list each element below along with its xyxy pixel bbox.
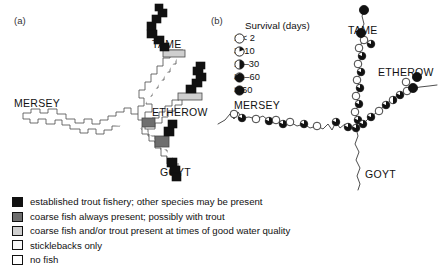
legend-label: no fish — [30, 255, 58, 265]
panel-a-map — [0, 0, 218, 190]
site-marker — [367, 113, 375, 121]
site-marker — [353, 76, 361, 84]
legend-swatch-light-gray — [12, 226, 23, 236]
site-marker — [357, 68, 365, 76]
panel-a-label-goyt: GOYT — [160, 166, 191, 178]
panel-b-label-tame: TAME — [348, 24, 378, 36]
legend-row: coarse fish and/or trout present at time… — [12, 224, 432, 238]
site-markers-mersey — [230, 110, 360, 132]
site-marker — [382, 101, 390, 109]
legend-swatch-near-white — [12, 240, 23, 250]
site-marker — [408, 83, 417, 92]
site-marker — [230, 110, 238, 118]
figure-root: (a) — [0, 0, 438, 274]
site-markers-etherow — [359, 72, 421, 127]
site-marker — [238, 114, 246, 122]
panel-a-label-tame: TAME — [152, 38, 182, 50]
panel-b-label-goyt: GOYT — [365, 168, 396, 180]
site-marker — [265, 117, 273, 125]
site-marker — [358, 52, 366, 60]
site-marker — [355, 100, 363, 108]
site-marker — [356, 84, 364, 92]
site-marker — [396, 91, 404, 99]
site-marker — [332, 118, 340, 126]
site-marker — [351, 108, 359, 116]
site-marker — [313, 122, 321, 130]
panel-b-map — [208, 0, 438, 190]
site-marker — [375, 107, 383, 115]
reach-confluence-darkgray — [142, 118, 155, 127]
panel-b: (b) Survival (days) 1 < 2 3–10 11–30 — [208, 0, 438, 190]
reach-etherow-lightgray — [178, 93, 202, 100]
legend-label: coarse fish and/or trout present at time… — [30, 226, 290, 236]
legend-row: coarse fish always present; possibly wit… — [12, 209, 432, 223]
site-marker — [300, 120, 308, 128]
site-marker — [354, 60, 362, 68]
panel-b-label-mersey: MERSEY — [234, 99, 280, 111]
site-marker — [402, 78, 410, 86]
legend-label: sticklebacks only — [30, 241, 102, 251]
reach-goyt-darkgray — [155, 136, 169, 147]
site-marker — [286, 118, 294, 126]
panel-a: (a) — [0, 0, 218, 190]
legend-row: sticklebacks only — [12, 238, 432, 252]
legend-label: coarse fish always present; possibly wit… — [30, 212, 225, 222]
site-marker — [252, 115, 260, 123]
site-marker — [352, 92, 360, 100]
legend-swatch-white — [12, 255, 23, 265]
panel-a-label-etherow: ETHEROW — [152, 106, 208, 118]
legend-swatch-black — [12, 197, 23, 207]
reach-etherow-black — [186, 62, 206, 93]
legend-label: established trout fishery; other species… — [30, 197, 263, 207]
site-marker — [359, 5, 368, 14]
site-marker — [355, 44, 363, 52]
legend-row: established trout fishery; other species… — [12, 195, 432, 209]
site-marker — [344, 123, 352, 131]
site-marker — [272, 116, 280, 124]
panel-b-label-etherow: ETHEROW — [378, 66, 434, 78]
site-marker — [359, 120, 367, 128]
fish-status-legend: established trout fishery; other species… — [12, 195, 432, 267]
site-marker — [279, 120, 287, 128]
legend-row: no fish — [12, 253, 432, 267]
site-marker — [367, 40, 375, 48]
site-marker — [389, 96, 397, 104]
legend-swatch-dark-gray — [12, 212, 23, 222]
site-marker — [352, 124, 360, 132]
panel-a-label-mersey: MERSEY — [14, 97, 60, 109]
